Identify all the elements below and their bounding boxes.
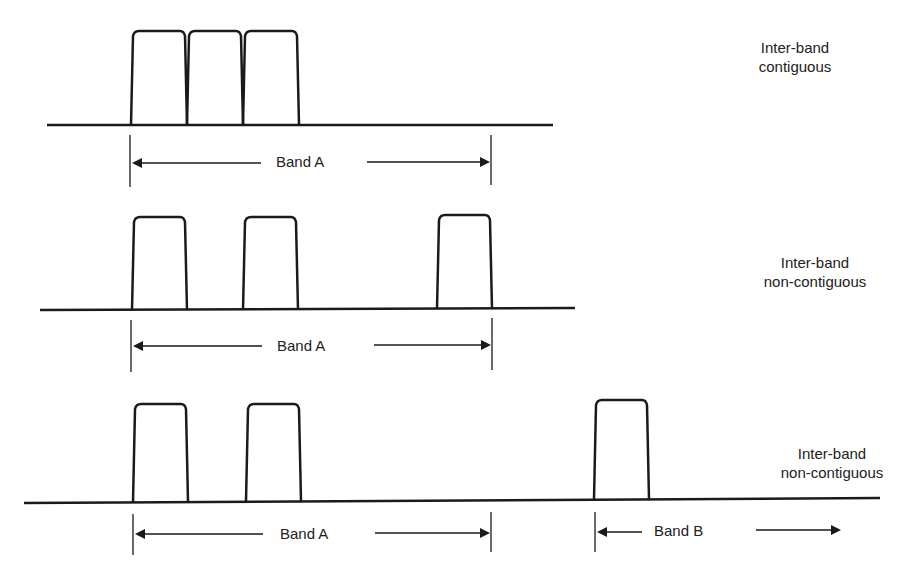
row2-spectrum (40, 215, 575, 310)
row2-title-line2: non-contiguous (745, 272, 885, 291)
row1-carrier-1 (131, 31, 187, 125)
row3-band-b-arrow (595, 512, 841, 552)
row3-band-a-label: Band A (280, 525, 328, 542)
row3-title-line1: Inter-band (762, 444, 902, 463)
row1-spectrum (47, 31, 553, 125)
row3-carrier-3 (594, 400, 649, 499)
row2-carrier-3 (437, 215, 492, 309)
row1-carrier-3 (243, 31, 299, 125)
row2-baseline (40, 308, 575, 310)
row3-carrier-2 (246, 404, 301, 501)
row2-band-a-label: Band A (277, 337, 325, 354)
row3-title-line2: non-contiguous (762, 463, 902, 482)
row3-baseline (24, 498, 880, 503)
row2-title-line1: Inter-band (745, 253, 885, 272)
row3-title: Inter-band non-contiguous (762, 444, 902, 482)
row2-title: Inter-band non-contiguous (745, 253, 885, 291)
row3-band-b-label: Band B (654, 522, 703, 539)
row3-carrier-1 (133, 404, 188, 502)
row1-band-a-label: Band A (276, 153, 324, 170)
row1-title-line2: contiguous (730, 57, 860, 76)
row3-spectrum (24, 400, 880, 503)
row2-carrier-2 (243, 217, 298, 310)
row1-carrier-2 (187, 31, 243, 125)
row2-carrier-1 (132, 217, 187, 310)
row1-title-line1: Inter-band (730, 38, 860, 57)
row1-title: Inter-band contiguous (730, 38, 860, 76)
